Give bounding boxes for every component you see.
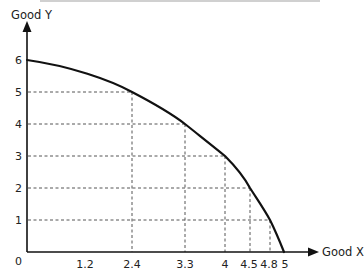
x-axis-title: Good X [322,245,364,259]
x-tick-labels: 1.2 2.4 3.3 4 4.5 4.8 5 [76,258,288,271]
x-axis-arrow-icon [308,248,319,257]
ppf-chart: Good Y Good X 6 5 4 3 2 1 0 1.2 2.4 3.3 … [0,0,364,280]
cropped-title [40,0,320,2]
x-tick-5: 5 [282,258,289,271]
x-tick-2.4: 2.4 [123,258,141,271]
x-tick-4.5: 4.5 [240,258,258,271]
y-tick-6: 6 [15,54,22,67]
y-tick-4: 4 [15,118,22,131]
y-tick-5: 5 [15,86,22,99]
guide-lines [28,92,270,252]
x-tick-1.2: 1.2 [76,258,94,271]
x-tick-3.3: 3.3 [176,258,194,271]
origin-label: 0 [15,255,22,268]
y-tick-labels: 6 5 4 3 2 1 0 [15,54,22,268]
x-tick-4.8: 4.8 [260,258,278,271]
y-tick-1: 1 [15,214,22,227]
y-tick-2: 2 [15,182,22,195]
y-axis-arrow-icon [23,21,32,32]
y-tick-3: 3 [15,150,22,163]
axes [23,21,320,257]
x-tick-4: 4 [222,258,229,271]
y-axis-title: Good Y [11,8,53,22]
